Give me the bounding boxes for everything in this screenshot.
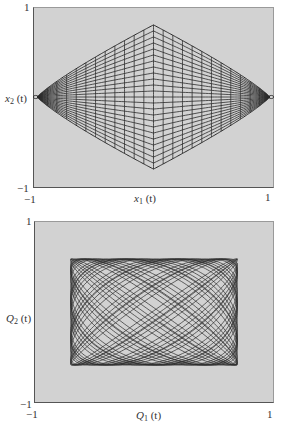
y-label-sub: 2 xyxy=(10,97,14,106)
x-label-sub: 1 xyxy=(144,414,148,423)
top-phase-plot: 1 −1 −1 1 x2 (t) x1 (t) xyxy=(0,0,282,213)
bottom-x-tick-max: 1 xyxy=(267,409,273,420)
bottom-phase-plot: 1 −1 −1 1 Q2 (t) Q1 (t) xyxy=(0,213,282,426)
bottom-x-tick-min: −1 xyxy=(26,409,38,420)
top-x-tick-min: −1 xyxy=(24,194,36,205)
top-y-tick-max: 1 xyxy=(24,2,30,13)
x-label-arg: (t) xyxy=(151,409,161,421)
bottom-trajectory-curve xyxy=(0,213,282,426)
x-label-var: Q xyxy=(136,409,144,421)
x-label-arg: (t) xyxy=(146,192,156,204)
top-trajectory-curve xyxy=(0,0,282,213)
top-x-axis-label: x1 (t) xyxy=(134,192,156,208)
top-x-tick-max: 1 xyxy=(265,192,271,203)
bottom-y-axis-label: Q2 (t) xyxy=(6,312,31,328)
bottom-y-tick-max: 1 xyxy=(26,216,32,227)
y-label-arg: (t) xyxy=(17,92,27,104)
x-label-sub: 1 xyxy=(139,197,143,206)
top-y-axis-label: x2 (t) xyxy=(5,92,27,108)
y-label-var: Q xyxy=(6,312,14,324)
bottom-x-axis-label: Q1 (t) xyxy=(136,409,161,425)
y-label-sub: 2 xyxy=(14,317,18,326)
y-label-arg: (t) xyxy=(21,312,31,324)
